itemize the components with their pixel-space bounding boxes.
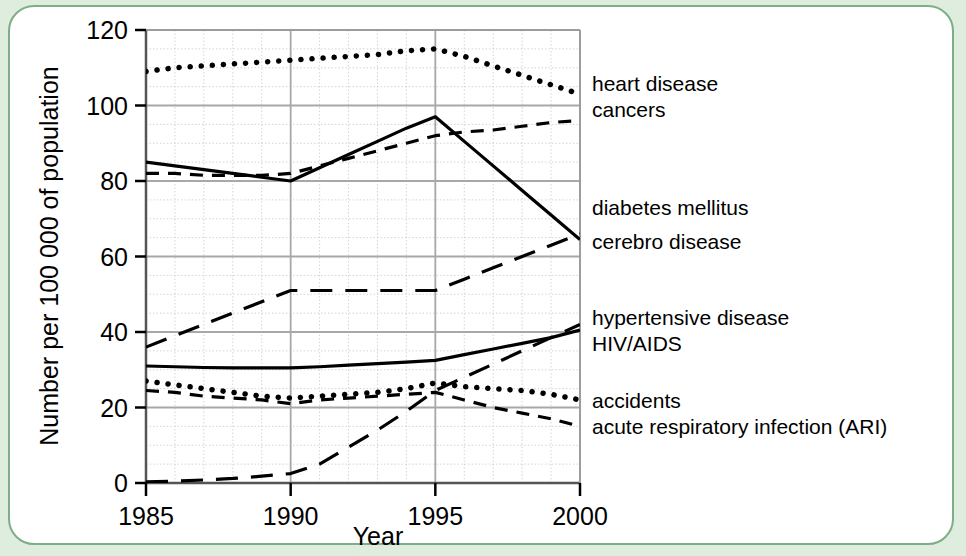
x-axis-title: Year (353, 522, 404, 550)
series-label-diabetes-mellitus: diabetes mellitus (592, 196, 748, 219)
x-tick-label: 1985 (118, 502, 174, 530)
y-tick-label: 120 (86, 16, 128, 44)
series-label-acute-respiratory-infection-ari: acute respiratory infection (ARI) (592, 415, 887, 438)
series-line-diabetes-mellitus (146, 234, 580, 347)
y-tick-label: 60 (100, 243, 128, 271)
series-line-accidents (146, 381, 580, 400)
series-label-hypertensive-disease: hypertensive disease (592, 306, 789, 329)
y-tick-label: 0 (114, 469, 128, 497)
series-label-hiv-aids: HIV/AIDS (592, 332, 682, 355)
series-lines (146, 49, 580, 482)
y-tick-label: 100 (86, 92, 128, 120)
series-line-acute-respiratory-infection-ari (146, 391, 580, 427)
series-line-hypertensive-disease (146, 330, 580, 368)
series-label-cancers: cancers (592, 98, 666, 121)
y-tick-label: 40 (100, 318, 128, 346)
x-tick-label: 1995 (408, 502, 464, 530)
line-chart-svg: 020406080100120 1985199019952000 Number … (0, 0, 966, 556)
x-tick-label: 2000 (552, 502, 608, 530)
y-tick-label: 80 (100, 167, 128, 195)
series-label-accidents: accidents (592, 389, 681, 412)
y-axis-title: Number per 100 000 of population (35, 66, 63, 445)
chart-area: 020406080100120 1985199019952000 Number … (0, 0, 966, 556)
series-line-cerebro-disease (146, 117, 580, 240)
y-axis-ticks (135, 30, 146, 483)
x-axis-ticks (146, 483, 580, 496)
series-line-hiv-aids (146, 324, 580, 481)
series-label-cerebro-disease: cerebro disease (592, 230, 741, 253)
y-tick-label: 20 (100, 394, 128, 422)
series-labels: heart diseasecancersdiabetes mellituscer… (592, 72, 887, 439)
x-tick-label: 1990 (263, 502, 319, 530)
y-axis-tick-labels: 020406080100120 (86, 16, 128, 497)
major-gridlines (146, 30, 580, 483)
figure-container: 020406080100120 1985199019952000 Number … (0, 0, 966, 556)
series-label-heart-disease: heart disease (592, 72, 718, 95)
series-line-heart-disease (146, 49, 580, 94)
